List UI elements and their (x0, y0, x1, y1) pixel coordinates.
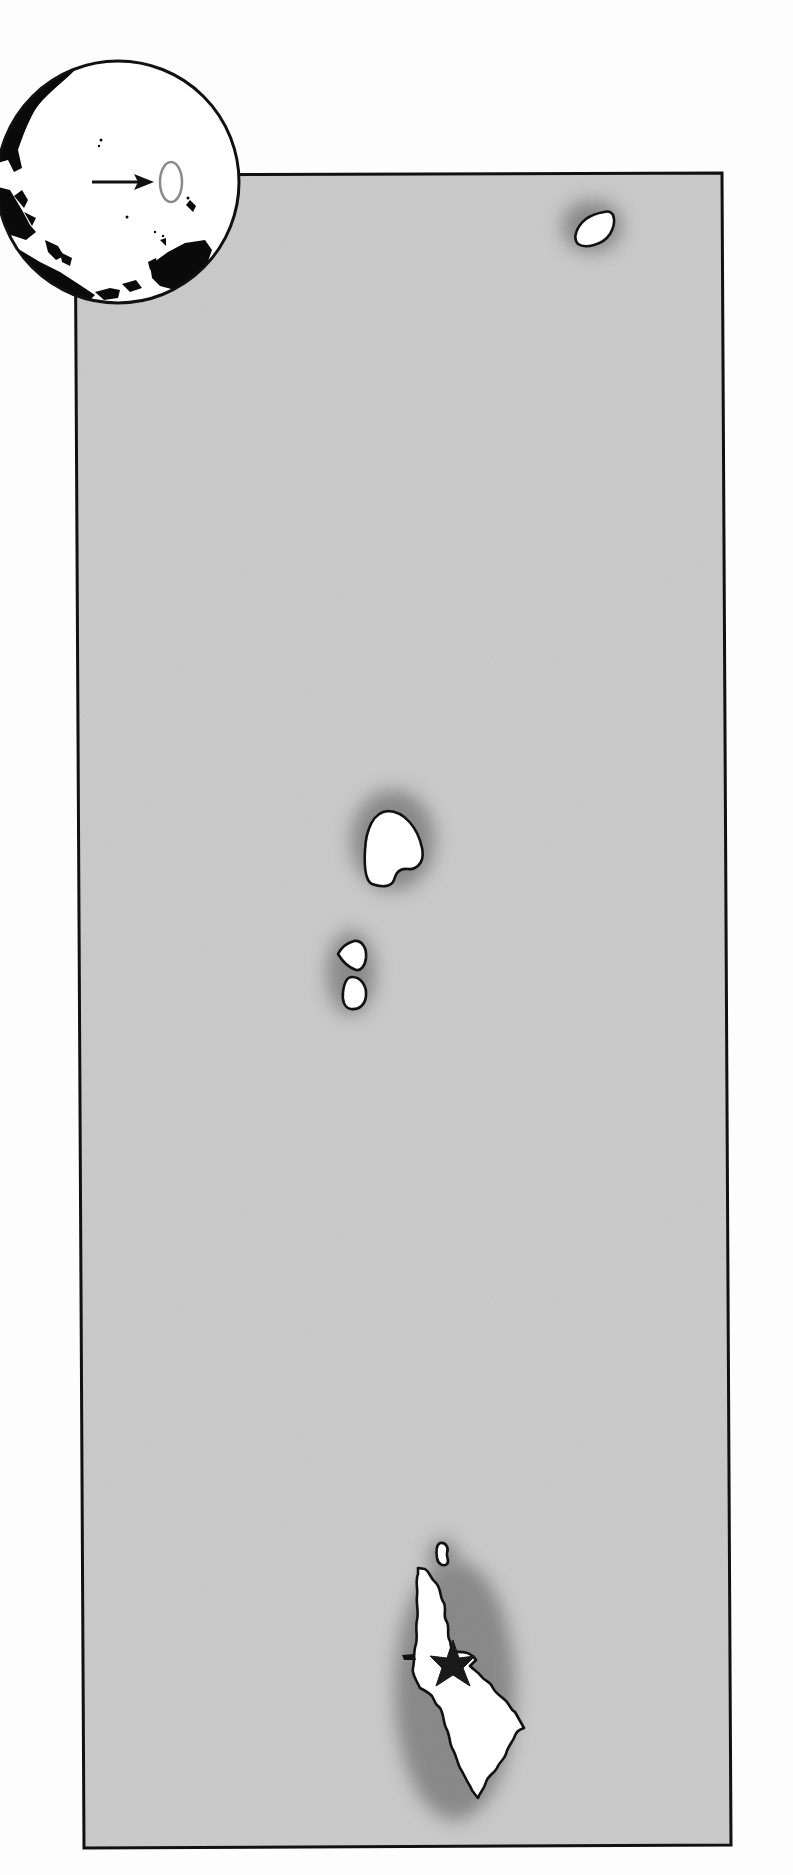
island-small-lower (343, 977, 366, 1009)
island-main-south-westcape (402, 1654, 416, 1660)
locator-map (0, 0, 793, 1875)
main-map-frame (75, 173, 731, 1848)
map-canvas (0, 0, 793, 1875)
island-tiny-south (436, 1543, 448, 1565)
